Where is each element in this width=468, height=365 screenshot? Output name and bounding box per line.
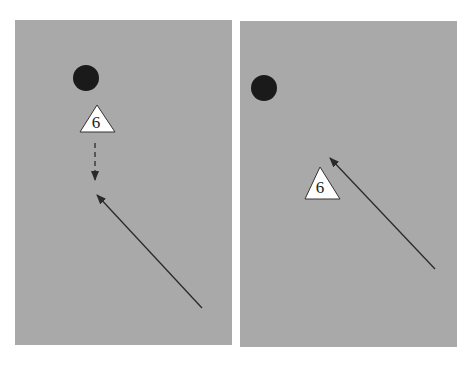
pass-arrow [97,195,202,308]
player-number-label: 6 [92,113,101,132]
pass-arrow [330,158,435,269]
ball-icon [251,75,277,101]
ball-icon [73,65,99,91]
player-number-label: 6 [316,178,325,197]
diagram-overlay: 6 6 [0,0,468,365]
